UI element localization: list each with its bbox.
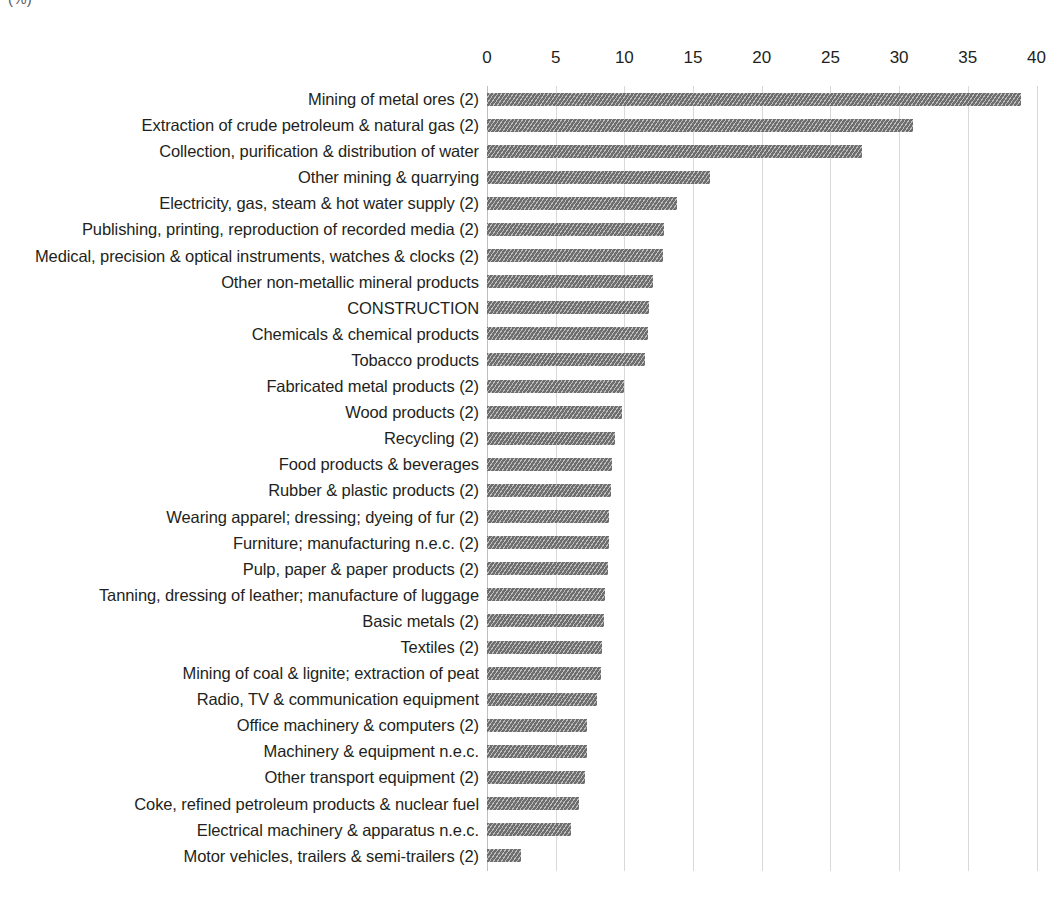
bar-row: Other transport equipment (2) <box>0 764 1062 790</box>
bar-row: Machinery & equipment n.e.c. <box>0 738 1062 764</box>
x-tick-label: 10 <box>615 48 634 68</box>
category-label: Office machinery & computers (2) <box>0 712 479 738</box>
bar <box>487 406 622 419</box>
bar-container <box>487 582 605 608</box>
bar-row: Extraction of crude petroleum & natural … <box>0 112 1062 138</box>
bar <box>487 719 587 732</box>
bar-container <box>487 556 608 582</box>
bar-row: Medical, precision & optical instruments… <box>0 243 1062 269</box>
bar-container <box>487 295 649 321</box>
bar <box>487 275 653 288</box>
bar <box>487 380 624 393</box>
category-label: Tanning, dressing of leather; manufactur… <box>0 582 479 608</box>
bar-row: Tobacco products <box>0 347 1062 373</box>
bar-container <box>487 164 710 190</box>
bar <box>487 145 862 158</box>
bar-row: Chemicals & chemical products <box>0 321 1062 347</box>
category-label: Machinery & equipment n.e.c. <box>0 738 479 764</box>
x-tick-label: 20 <box>752 48 771 68</box>
category-label: Chemicals & chemical products <box>0 321 479 347</box>
bar-container <box>487 243 663 269</box>
bar-row: Motor vehicles, trailers & semi-trailers… <box>0 843 1062 869</box>
bar <box>487 536 609 549</box>
bar-container <box>487 764 585 790</box>
bar-container <box>487 138 862 164</box>
bar <box>487 849 521 862</box>
category-label: CONSTRUCTION <box>0 295 479 321</box>
bar-row: Basic metals (2) <box>0 608 1062 634</box>
x-tick-label: 40 <box>1027 48 1046 68</box>
bar <box>487 771 585 784</box>
bar <box>487 171 710 184</box>
unit-label: (%) <box>8 0 32 7</box>
category-label: Electricity, gas, steam & hot water supp… <box>0 190 479 216</box>
bar <box>487 223 664 236</box>
bar <box>487 588 605 601</box>
bar <box>487 614 604 627</box>
bar-container <box>487 791 579 817</box>
category-label: Fabricated metal products (2) <box>0 373 479 399</box>
bar-row: Collection, purification & distribution … <box>0 138 1062 164</box>
bar-row: Textiles (2) <box>0 634 1062 660</box>
category-label: Radio, TV & communication equipment <box>0 686 479 712</box>
x-tick-label: 35 <box>958 48 977 68</box>
bar-container <box>487 686 597 712</box>
bar <box>487 353 645 366</box>
bar-container <box>487 504 609 530</box>
bar-row: Fabricated metal products (2) <box>0 373 1062 399</box>
bar-row: Publishing, printing, reproduction of re… <box>0 216 1062 242</box>
bar-row: Furniture; manufacturing n.e.c. (2) <box>0 530 1062 556</box>
x-tick-label: 30 <box>890 48 909 68</box>
bar <box>487 667 601 680</box>
bar <box>487 93 1021 106</box>
bar-row: Other mining & quarrying <box>0 164 1062 190</box>
bar-container <box>487 347 645 373</box>
bar-container <box>487 738 587 764</box>
bar-container <box>487 86 1021 112</box>
bar <box>487 745 587 758</box>
bar-container <box>487 712 587 738</box>
bar-row: Electricity, gas, steam & hot water supp… <box>0 190 1062 216</box>
x-tick-label: 15 <box>684 48 703 68</box>
bar-row: Wearing apparel; dressing; dyeing of fur… <box>0 504 1062 530</box>
category-label: Other mining & quarrying <box>0 164 479 190</box>
category-label: Mining of metal ores (2) <box>0 86 479 112</box>
bar-row: Tanning, dressing of leather; manufactur… <box>0 582 1062 608</box>
bar <box>487 797 579 810</box>
bar <box>487 641 602 654</box>
bar <box>487 693 597 706</box>
bar-row: Food products & beverages <box>0 451 1062 477</box>
bar-container <box>487 660 601 686</box>
category-label: Medical, precision & optical instruments… <box>0 243 479 269</box>
bar-container <box>487 634 602 660</box>
category-label: Pulp, paper & paper products (2) <box>0 556 479 582</box>
category-label: Mining of coal & lignite; extraction of … <box>0 660 479 686</box>
bar-row: Coke, refined petroleum products & nucle… <box>0 791 1062 817</box>
bar <box>487 301 649 314</box>
bar <box>487 197 677 210</box>
category-label: Wood products (2) <box>0 399 479 425</box>
bar <box>487 249 663 262</box>
bar-container <box>487 608 604 634</box>
bar-row: Radio, TV & communication equipment <box>0 686 1062 712</box>
bar-row: CONSTRUCTION <box>0 295 1062 321</box>
category-label: Textiles (2) <box>0 634 479 660</box>
category-label: Motor vehicles, trailers & semi-trailers… <box>0 843 479 869</box>
category-label: Coke, refined petroleum products & nucle… <box>0 791 479 817</box>
bar-row: Mining of metal ores (2) <box>0 86 1062 112</box>
bar <box>487 510 609 523</box>
x-tick-label: 25 <box>821 48 840 68</box>
bar-row: Rubber & plastic products (2) <box>0 477 1062 503</box>
category-label: Other transport equipment (2) <box>0 764 479 790</box>
bar-container <box>487 112 913 138</box>
bar-row: Mining of coal & lignite; extraction of … <box>0 660 1062 686</box>
bar <box>487 823 571 836</box>
bar-row: Wood products (2) <box>0 399 1062 425</box>
category-label: Rubber & plastic products (2) <box>0 477 479 503</box>
category-label: Other non-metallic mineral products <box>0 269 479 295</box>
x-tick-label: 0 <box>482 48 491 68</box>
bar <box>487 327 648 340</box>
category-label: Publishing, printing, reproduction of re… <box>0 216 479 242</box>
x-axis-tick-labels: 0510152025303540 <box>0 48 1062 72</box>
bar-container <box>487 373 624 399</box>
